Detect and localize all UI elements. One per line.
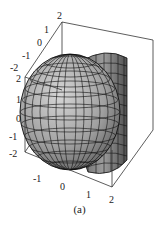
svg-text:0: 0	[37, 37, 42, 48]
svg-text:-2: -2	[10, 62, 18, 73]
svg-text:2: 2	[57, 10, 62, 21]
svg-text:-2: -2	[9, 148, 17, 159]
svg-text:1: 1	[86, 189, 91, 200]
svg-text:-1: -1	[33, 173, 41, 184]
svg-text:0: 0	[16, 113, 21, 124]
x-axis-ticks: -1 0 1 2	[33, 173, 114, 205]
svg-text:-1: -1	[22, 50, 30, 61]
svg-text:-1: -1	[9, 131, 17, 142]
surface-plot-3d: 2 1 0 -1 -2 2 1 0 -1 -2 -1 0 1 2	[0, 0, 159, 226]
svg-text:0: 0	[60, 181, 65, 192]
svg-text:1: 1	[44, 24, 49, 35]
sphere-lobe	[20, 54, 120, 170]
svg-text:1: 1	[16, 94, 21, 105]
z-axis-ticks: 2 1 0 -1 -2	[9, 73, 21, 159]
figure-caption: (a)	[0, 203, 159, 215]
svg-text:2: 2	[16, 73, 21, 84]
